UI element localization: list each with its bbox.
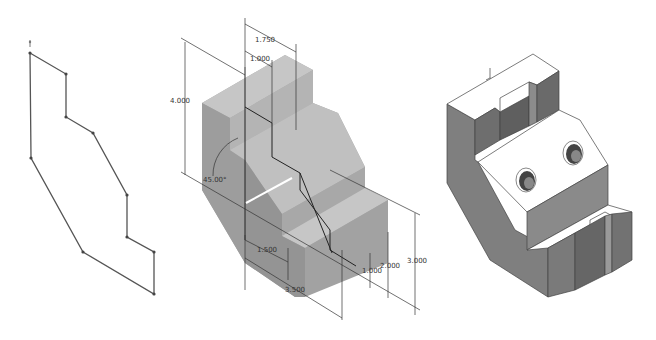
hole-icon [516,168,536,192]
figure-canvas: 1.750 1.000 4.000 45.00° 1.500 3.500 1.0… [0,0,656,340]
hole-icon [563,141,583,165]
finished-part [447,54,632,297]
finished-part-panel [0,0,656,340]
